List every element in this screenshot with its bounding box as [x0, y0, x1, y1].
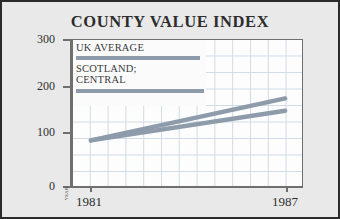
x-axis-line: [70, 186, 303, 188]
y-axis-label-100: 100: [37, 125, 55, 140]
y-axis-label-200: 200: [37, 79, 55, 94]
series-line-scotland-central: [91, 111, 285, 141]
legend-label-uk-average: UK AVERAGE: [76, 42, 206, 54]
chart-figure: COUNTY VALUE INDEX UK AVERAGE SCOTLAND; …: [0, 0, 340, 219]
legend-swatch-uk-average: [76, 56, 200, 60]
y-axis-line: [70, 39, 72, 188]
x-tick-1987: [286, 186, 288, 192]
x-tick-1981: [90, 186, 92, 192]
y-axis-label-0: 0: [49, 179, 55, 194]
chart-legend: UK AVERAGE SCOTLAND; CENTRAL: [73, 40, 206, 106]
legend-label-scotland-central: SCOTLAND; CENTRAL: [76, 63, 206, 86]
y-axis-label-300: 300: [37, 32, 55, 47]
x-axis-label-1981: 1981: [76, 194, 102, 210]
y-tick-300: [63, 39, 72, 41]
y-tick-200: [63, 86, 72, 88]
legend-swatch-scotland-central: [76, 89, 204, 93]
x-axis-label-1987: 1987: [272, 194, 298, 210]
y-tick-100: [63, 132, 72, 134]
page-title: COUNTY VALUE INDEX: [2, 12, 338, 32]
x-axis-title: YEAR: [64, 187, 69, 200]
